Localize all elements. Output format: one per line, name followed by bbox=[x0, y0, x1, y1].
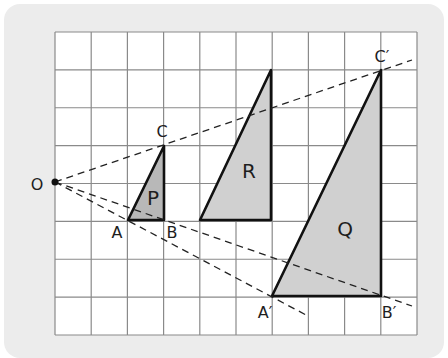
vertex-label: B′ bbox=[382, 303, 397, 322]
vertex-label: A′ bbox=[258, 303, 273, 322]
vertex-label: C bbox=[156, 122, 167, 141]
vertex-label: C′ bbox=[375, 47, 390, 66]
vertex-label: A bbox=[112, 223, 123, 242]
triangle-label-p: P bbox=[147, 186, 159, 210]
enlargement-diagram: PRQ CABA′B′C′O bbox=[0, 0, 448, 358]
centre-point bbox=[52, 179, 59, 186]
triangle-label-q: Q bbox=[337, 217, 353, 241]
triangle-label-r: R bbox=[242, 159, 256, 183]
vertex-label: B bbox=[167, 223, 178, 242]
vertex-label: O bbox=[31, 175, 44, 194]
